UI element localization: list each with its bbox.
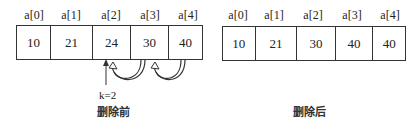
after-caption: 删除后	[293, 103, 326, 119]
after-array: 10 21 30 40 40	[222, 26, 406, 61]
after-cell-0: 10	[223, 27, 256, 60]
after-cell-3: 40	[336, 27, 374, 60]
after-index-3: a[3]	[332, 8, 372, 23]
after-index-1: a[1]	[254, 8, 294, 23]
before-caption: 删除前	[97, 103, 130, 119]
k-label: k=2	[99, 89, 116, 101]
after-index-4: a[4]	[370, 8, 410, 23]
after-index-2: a[2]	[293, 8, 333, 23]
after-cell-1: 21	[256, 27, 298, 60]
after-index-0: a[0]	[218, 8, 258, 23]
after-cell-4: 40	[373, 27, 405, 60]
after-cell-2: 30	[297, 27, 336, 60]
